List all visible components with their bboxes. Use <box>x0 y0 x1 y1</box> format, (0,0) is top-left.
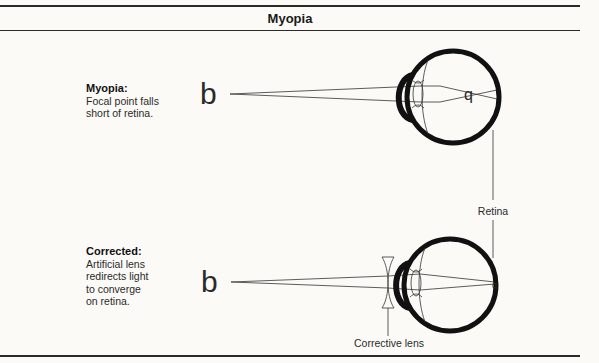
optics-diagram: b q Retina b Corrective lens <box>0 0 599 363</box>
light-rays-top <box>230 86 497 102</box>
eye-top <box>399 51 499 143</box>
object-b-top: b <box>200 77 217 110</box>
object-b-bottom: b <box>201 265 218 298</box>
corrective-lens <box>382 257 394 308</box>
retina-label: Retina <box>478 205 509 217</box>
light-rays-bottom <box>231 274 495 290</box>
corrective-lens-label: Corrective lens <box>354 337 424 349</box>
image-q-top: q <box>464 86 473 103</box>
image-q-bottom: q <box>492 280 497 290</box>
bottom-rule <box>0 355 580 357</box>
